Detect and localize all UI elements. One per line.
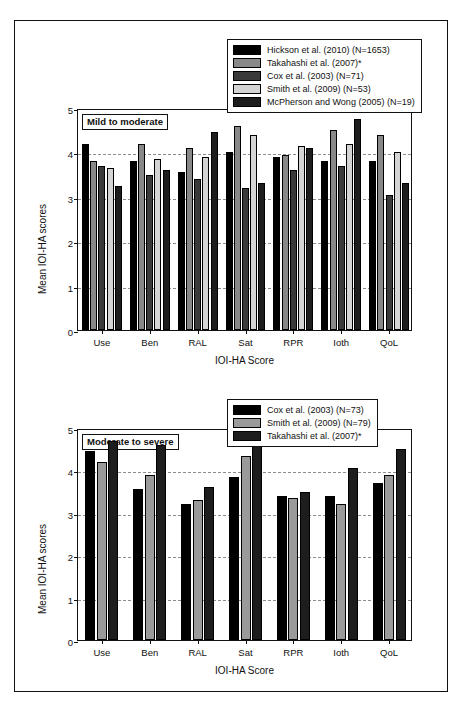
legend-label: Smith et al. (2009) (N=79) [267, 419, 371, 428]
legend-item[interactable]: McPherson and Wong (2005) (N=19) [233, 96, 415, 108]
x-tick-mark [102, 330, 103, 334]
y-axis-label-bottom: Mean IOI-HA scores [37, 524, 48, 614]
x-tick-label-sat: Sat [238, 337, 252, 348]
bar [156, 445, 166, 640]
legend-label: Smith et al. (2009) (N=53) [267, 85, 371, 94]
x-tick-mark [293, 640, 294, 644]
y-axis-label-top: Mean IOI-HA scores [37, 204, 48, 294]
bar [258, 183, 265, 330]
bar [384, 475, 394, 640]
y-tick-mark [74, 154, 78, 155]
bar [288, 498, 298, 640]
bar [234, 126, 241, 330]
bar [252, 432, 262, 640]
bar [145, 475, 155, 640]
legend-item[interactable]: Smith et al. (2009) (N=79) [233, 417, 371, 429]
plot-area-bottom: Moderate to severe 012345UseBenRALSatRPR… [77, 429, 412, 641]
legend-top[interactable]: Hickson et al. (2010) (N=1653)Takahashi … [227, 39, 422, 113]
y-tick-label: 5 [68, 425, 73, 436]
x-tick-label-ral: RAL [188, 337, 206, 348]
bar [290, 170, 297, 330]
x-tick-label-rpr: RPR [283, 647, 303, 658]
legend-label: Cox et al. (2003) (N=73) [267, 406, 364, 415]
bar [194, 179, 201, 330]
bar [277, 496, 287, 640]
bar [163, 170, 170, 330]
y-tick-mark [74, 600, 78, 601]
legend-bottom[interactable]: Cox et al. (2003) (N=73)Smith et al. (20… [227, 399, 378, 447]
legend-item[interactable]: Takahashi et al. (2007)* [233, 430, 371, 442]
legend-item[interactable]: Cox et al. (2003) (N=71) [233, 70, 415, 82]
bar [108, 441, 118, 640]
legend-label: Hickson et al. (2010) (N=1653) [267, 46, 390, 55]
legend-item[interactable]: Takahashi et al. (2007)* [233, 57, 415, 69]
bar [229, 477, 239, 640]
x-tick-mark [102, 640, 103, 644]
legend-item[interactable]: Cox et al. (2003) (N=73) [233, 404, 371, 416]
bar [211, 132, 218, 330]
bar [204, 487, 214, 640]
x-tick-mark [198, 640, 199, 644]
bar [250, 135, 257, 330]
bar [90, 161, 97, 330]
legend-swatch-icon [233, 418, 261, 428]
y-tick-label: 2 [68, 552, 73, 563]
legend-swatch-icon [233, 405, 261, 415]
y-tick-mark [74, 288, 78, 289]
bar [193, 500, 203, 640]
bar [202, 157, 209, 330]
y-tick-label: 4 [68, 149, 73, 160]
y-tick-mark [74, 110, 78, 111]
x-tick-mark [341, 330, 342, 334]
y-tick-mark [74, 243, 78, 244]
x-tick-label-use: Use [93, 647, 110, 658]
x-tick-mark [246, 640, 247, 644]
y-tick-label: 4 [68, 467, 73, 478]
panel-title-mild-to-moderate: Mild to moderate [82, 114, 168, 130]
bar [321, 161, 328, 330]
bar [330, 130, 337, 330]
bar [325, 496, 335, 640]
x-axis-label-bottom: IOI-HA Score [77, 665, 412, 676]
bar [178, 172, 185, 330]
bar [396, 449, 406, 640]
y-tick-label: 2 [68, 238, 73, 249]
legend-label: Takahashi et al. (2007)* [267, 432, 362, 441]
y-tick-label: 1 [68, 594, 73, 605]
x-tick-label-qol: QoL [380, 337, 398, 348]
legend-item[interactable]: Smith et al. (2009) (N=53) [233, 83, 415, 95]
plot-area-top: Mild to moderate 012345UseBenRALSatRPRIo… [77, 109, 412, 331]
x-tick-label-rpr: RPR [283, 337, 303, 348]
y-tick-mark [74, 515, 78, 516]
bar [146, 175, 153, 330]
bar [369, 161, 376, 330]
x-tick-label-ioth: Ioth [333, 337, 349, 348]
y-tick-mark [74, 199, 78, 200]
x-axis-label-top: IOI-HA Score [77, 355, 412, 366]
bar [133, 489, 143, 640]
bar [394, 152, 401, 330]
bar [386, 195, 393, 330]
bar [154, 159, 161, 330]
bar [130, 161, 137, 330]
x-tick-label-sat: Sat [238, 647, 252, 658]
x-tick-label-qol: QoL [380, 647, 398, 658]
x-tick-mark [293, 330, 294, 334]
legend-swatch-icon [233, 71, 261, 81]
legend-item[interactable]: Hickson et al. (2010) (N=1653) [233, 44, 415, 56]
x-tick-label-ben: Ben [141, 337, 158, 348]
legend-label: Takahashi et al. (2007)* [267, 59, 362, 68]
y-tick-mark [74, 472, 78, 473]
bar [241, 456, 251, 640]
bar [402, 183, 409, 330]
bar [282, 155, 289, 330]
bar [298, 146, 305, 330]
bar [107, 168, 114, 330]
y-tick-mark [74, 430, 78, 431]
chart-panel-mild-to-moderate: Mean IOI-HA scores Mild to moderate 0123… [15, 29, 449, 359]
bar [98, 166, 105, 330]
x-tick-mark [246, 330, 247, 334]
x-tick-label-use: Use [93, 337, 110, 348]
bar [306, 148, 313, 330]
chart-panel-moderate-to-severe: Mean IOI-HA scores Moderate to severe 01… [15, 371, 449, 683]
